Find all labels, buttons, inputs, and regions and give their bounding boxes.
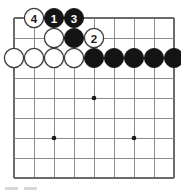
stone-white[interactable] — [4, 48, 23, 67]
stone-white[interactable] — [24, 48, 43, 67]
move-number-label: 4 — [31, 13, 38, 25]
stone-body — [84, 48, 103, 67]
stone-black[interactable] — [104, 48, 123, 67]
stone-black-move-3[interactable]: 3 — [64, 8, 83, 27]
stone-white[interactable] — [64, 48, 83, 67]
stone-body — [144, 48, 163, 67]
star-point — [52, 136, 57, 141]
stone-body — [44, 28, 63, 47]
stone-body — [64, 48, 83, 67]
stone-body — [4, 48, 23, 67]
footer-mark-b — [24, 187, 37, 190]
footer-mark-a — [5, 187, 18, 190]
stone-white-move-2[interactable]: 2 — [84, 28, 103, 47]
move-number-label: 3 — [71, 13, 77, 25]
stone-black[interactable] — [124, 48, 143, 67]
footer-marks — [5, 187, 37, 190]
star-point — [132, 136, 137, 141]
stone-white[interactable] — [44, 28, 63, 47]
stone-body — [124, 48, 143, 67]
stone-body — [164, 48, 181, 67]
stone-white-move-4[interactable]: 4 — [24, 8, 43, 27]
stone-black[interactable] — [144, 48, 163, 67]
stone-body — [64, 28, 83, 47]
move-number-label: 1 — [51, 13, 58, 25]
stone-black[interactable] — [164, 48, 181, 67]
move-number-label: 2 — [91, 33, 97, 45]
star-point — [92, 96, 97, 101]
stone-body — [104, 48, 123, 67]
stone-body — [24, 48, 43, 67]
go-board[interactable]: 4132 — [0, 0, 181, 193]
go-diagram: 4132 — [0, 0, 181, 193]
stone-black[interactable] — [84, 48, 103, 67]
stone-white[interactable] — [44, 48, 63, 67]
stone-black-move-1[interactable]: 1 — [44, 8, 63, 27]
stone-black[interactable] — [64, 28, 83, 47]
stone-body — [44, 48, 63, 67]
